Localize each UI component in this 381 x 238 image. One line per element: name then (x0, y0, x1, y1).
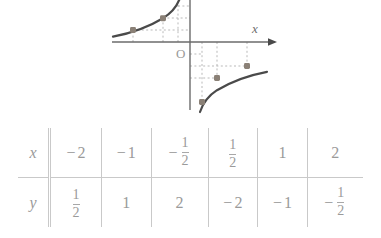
minus-sign: − (67, 144, 78, 162)
minus-sign: − (117, 144, 128, 162)
row-header-y: y (18, 178, 50, 228)
value-table-container: x −2 −1 −12 12 1 2 y 12 1 2 −2 −1 −12 (0, 122, 381, 238)
cell-y-3: −2 (208, 178, 258, 228)
cell-content: −1 (117, 144, 136, 162)
cell-content: −1 (273, 194, 292, 212)
cell-content: 1 (278, 144, 286, 162)
data-point (130, 27, 136, 33)
fraction: 12 (180, 136, 191, 168)
cell-y-2: 2 (151, 178, 208, 228)
cell-content: 2 (176, 194, 184, 212)
denominator: 2 (71, 206, 82, 221)
denominator: 2 (335, 204, 346, 219)
table-row-x: x −2 −1 −12 12 1 2 (18, 128, 363, 178)
data-point (214, 75, 220, 81)
curve-left-branch (113, 0, 180, 37)
minus-sign: − (273, 194, 284, 212)
coordinate-plane-svg: x O (0, 0, 381, 122)
cell-y-0: 12 (50, 178, 102, 228)
data-point (199, 99, 205, 105)
cell-y-4: −1 (258, 178, 308, 228)
numerator: 1 (71, 188, 82, 203)
gridlines-quadrant-4 (190, 42, 247, 102)
cell-content: −12 (324, 186, 346, 218)
graph-figure: x O (0, 0, 381, 122)
cell-content: −2 (223, 194, 242, 212)
row-header-x: x (18, 128, 50, 178)
cell-x-4: 1 (258, 128, 308, 178)
cell-content: 1 (122, 194, 130, 212)
curve-right-branch (200, 72, 267, 112)
x-axis-label: x (251, 21, 258, 36)
cell-x-0: −2 (50, 128, 102, 178)
fraction: 12 (71, 188, 82, 220)
cell-content: −2 (67, 144, 86, 162)
minus-sign: − (324, 194, 335, 212)
denominator: 2 (227, 156, 238, 171)
minus-sign: − (169, 144, 180, 162)
table-row-y: y 12 1 2 −2 −1 −12 (18, 178, 363, 228)
cell-content: 12 (227, 138, 238, 170)
fraction: 12 (335, 186, 346, 218)
axes (112, 0, 268, 110)
x-axis-arrow (268, 38, 277, 46)
denominator: 2 (180, 154, 191, 169)
fraction: 12 (227, 138, 238, 170)
data-point (160, 15, 166, 21)
value-table: x −2 −1 −12 12 1 2 y 12 1 2 −2 −1 −12 (18, 128, 363, 227)
cell-content: 2 (331, 144, 339, 162)
numerator: 1 (335, 186, 346, 201)
cell-x-5: 2 (307, 128, 363, 178)
cell-x-1: −1 (102, 128, 152, 178)
minus-sign: − (223, 194, 234, 212)
cell-x-3: 12 (208, 128, 258, 178)
cell-y-1: 1 (102, 178, 152, 228)
cell-x-2: −12 (151, 128, 208, 178)
cell-content: −12 (169, 136, 191, 168)
numerator: 1 (180, 136, 191, 151)
origin-label: O (176, 46, 185, 61)
cell-y-5: −12 (307, 178, 363, 228)
numerator: 1 (227, 138, 238, 153)
data-point (244, 63, 250, 69)
cell-content: 12 (71, 188, 82, 220)
